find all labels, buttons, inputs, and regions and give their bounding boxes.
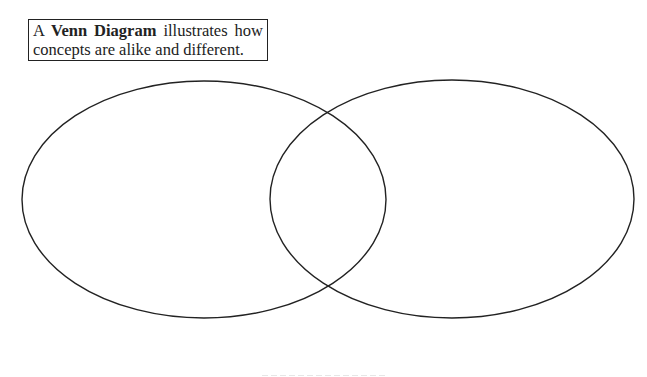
scan-artifact-line <box>262 375 388 376</box>
right-set-ellipse <box>270 80 634 318</box>
venn-diagram <box>0 0 647 377</box>
left-set-ellipse <box>22 81 386 318</box>
